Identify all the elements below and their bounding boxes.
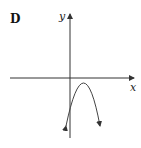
x-axis-label: x bbox=[130, 81, 137, 94]
parabola-curve bbox=[66, 83, 100, 126]
y-axis-label: y bbox=[58, 10, 66, 23]
graph: x y bbox=[0, 0, 141, 148]
